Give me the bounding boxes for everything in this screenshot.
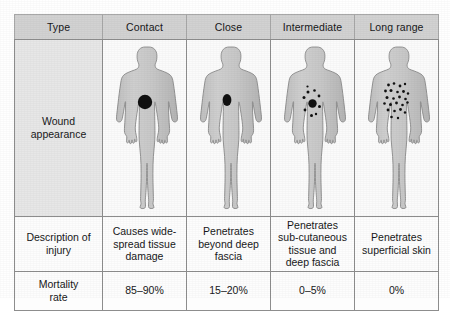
wound-mark-7 bbox=[396, 91, 399, 94]
wound-mark-20 bbox=[393, 110, 396, 113]
wound-mark-8 bbox=[402, 90, 405, 93]
wound-mark-5 bbox=[384, 90, 387, 93]
body-figure-contact bbox=[103, 40, 187, 216]
wound-mark-4 bbox=[404, 83, 406, 85]
wound-mark-3 bbox=[399, 85, 402, 88]
row-label-line-1: Wound bbox=[42, 115, 75, 127]
cell-description-intermediate: Penetrates sub-cutaneous tissue and deep… bbox=[271, 217, 355, 272]
body-figure-contact-svg bbox=[103, 40, 187, 216]
cell-wound-appearance-long-range bbox=[355, 40, 439, 217]
wound-mark-10 bbox=[386, 96, 389, 99]
wound-mark-21 bbox=[399, 108, 402, 111]
body-silhouette bbox=[117, 47, 178, 209]
wound-mark-1 bbox=[308, 99, 316, 107]
wound-mark-22 bbox=[404, 111, 406, 113]
row-label-description-of-injury: Description of injury bbox=[15, 217, 103, 272]
body-silhouette bbox=[201, 47, 262, 209]
row-label-line-1: Description of bbox=[26, 231, 90, 243]
cell-mortality-contact: 85–90% bbox=[103, 271, 187, 310]
wound-mark-24 bbox=[397, 117, 399, 119]
wound-mark-16 bbox=[395, 102, 398, 105]
wound-mark-1 bbox=[223, 94, 232, 106]
body-figure-intermediate bbox=[271, 40, 355, 216]
column-header-long-range: Long range bbox=[355, 15, 439, 40]
wound-mark-23 bbox=[390, 116, 393, 119]
wound-mark-7 bbox=[304, 109, 307, 112]
wound-mark-4 bbox=[303, 96, 306, 99]
wound-mark-18 bbox=[406, 101, 408, 103]
wound-mark-14 bbox=[383, 102, 386, 105]
wound-mark-1 bbox=[138, 95, 152, 109]
row-label-line-1: Mortality bbox=[39, 278, 79, 290]
wound-mark-9 bbox=[407, 92, 409, 94]
cell-mortality-intermediate: 0–5% bbox=[271, 271, 355, 310]
wound-mark-5 bbox=[318, 95, 321, 98]
row-description-of-injury: Description of injury Causes wide-spread… bbox=[15, 217, 439, 272]
wound-mark-6 bbox=[390, 89, 393, 92]
wound-mark-17 bbox=[401, 104, 404, 107]
row-label-line-2: appearance bbox=[31, 128, 86, 140]
body-silhouette bbox=[285, 47, 346, 209]
wound-mark-6 bbox=[318, 105, 321, 108]
wound-mark-10 bbox=[306, 85, 308, 87]
column-header-type: Type bbox=[15, 15, 103, 40]
body-figure-intermediate-svg bbox=[271, 40, 355, 216]
cell-mortality-long-range: 0% bbox=[355, 271, 439, 310]
wound-mark-19 bbox=[387, 109, 390, 112]
wound-characteristics-table: Type Contact Close Intermediate Long ran… bbox=[14, 14, 439, 311]
cell-wound-appearance-close bbox=[187, 40, 271, 217]
column-header-close: Close bbox=[187, 15, 271, 40]
column-header-contact: Contact bbox=[103, 15, 187, 40]
row-label-line-2: rate bbox=[49, 291, 67, 303]
cell-description-contact: Causes wide-spread tissue damage bbox=[103, 217, 187, 272]
row-mortality-rate: Mortality rate 85–90% 15–20% 0–5% 0% bbox=[15, 271, 439, 310]
row-wound-appearance: Wound appearance bbox=[15, 40, 439, 217]
body-figure-long-range-svg bbox=[355, 40, 439, 216]
wound-mark-15 bbox=[389, 103, 392, 106]
wound-mark-9 bbox=[315, 113, 317, 115]
body-figure-long-range bbox=[355, 40, 439, 216]
wound-mark-1 bbox=[387, 84, 390, 87]
wound-mark-11 bbox=[392, 97, 395, 100]
row-label-mortality-rate: Mortality rate bbox=[15, 271, 103, 310]
cell-wound-appearance-contact bbox=[103, 40, 187, 217]
body-figure-close-svg bbox=[187, 40, 271, 216]
table-header-row: Type Contact Close Intermediate Long ran… bbox=[15, 15, 439, 40]
cell-mortality-close: 15–20% bbox=[187, 271, 271, 310]
cell-wound-appearance-intermediate bbox=[271, 40, 355, 217]
column-header-intermediate: Intermediate bbox=[271, 15, 355, 40]
wound-mark-13 bbox=[404, 98, 407, 101]
wound-mark-12 bbox=[398, 96, 401, 99]
cell-description-close: Penetrates beyond deep fascia bbox=[187, 217, 271, 272]
wound-mark-2 bbox=[393, 82, 396, 85]
body-figure-close bbox=[187, 40, 271, 216]
wound-mark-3 bbox=[313, 89, 316, 92]
cell-description-long-range: Penetrates superficial skin bbox=[355, 217, 439, 272]
row-label-line-2: injury bbox=[46, 244, 71, 256]
body-silhouette bbox=[369, 47, 430, 209]
wound-mark-2 bbox=[307, 91, 310, 94]
row-label-wound-appearance: Wound appearance bbox=[15, 40, 103, 217]
wound-mark-8 bbox=[310, 114, 313, 117]
